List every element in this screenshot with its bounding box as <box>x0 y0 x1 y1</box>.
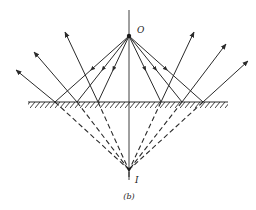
image-label: I <box>134 175 139 185</box>
object-label: O <box>137 25 145 35</box>
mirror-reflection-diagram: O I (b) <box>0 0 256 210</box>
figure-caption: (b) <box>123 192 134 201</box>
object-point <box>127 34 131 38</box>
